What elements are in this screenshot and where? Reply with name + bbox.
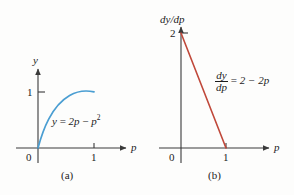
panel-b-eq-fraction: dy dp: [215, 70, 228, 93]
panel-a-equation: y = 2p − p2: [52, 116, 101, 127]
panel-a-y-tick-label-1: 1: [27, 87, 33, 98]
panel-b-y-axis-label: dy/dp: [160, 14, 184, 25]
panel-a-caption: (a): [61, 170, 73, 181]
panel-b-x-axis-label: p: [274, 142, 280, 153]
panel-a: y p 0 1 1 y = 2p − p2 (a): [0, 0, 147, 195]
panel-a-eq-term2-exp: 2: [97, 113, 101, 122]
panel-b: dy/dp p 0 2 1 dy dp = 2 − 2p (b): [147, 0, 294, 195]
panel-b-y-tick-label-2: 2: [170, 28, 176, 39]
panel-b-eq-frac-num: dy: [215, 70, 228, 81]
panel-a-eq-term1: 2p: [69, 115, 80, 127]
figure-root: y p 0 1 1 y = 2p − p2 (a): [0, 0, 294, 195]
panel-a-x-axis-label: p: [131, 142, 137, 153]
panel-b-x-tick-label-1: 1: [223, 152, 229, 163]
panel-a-x-tick-label-1: 1: [91, 152, 97, 163]
panel-b-equation: dy dp = 2 − 2p: [215, 70, 269, 93]
panel-a-plot: [0, 0, 147, 195]
panel-b-eq-frac-den: dp: [215, 81, 228, 93]
panel-b-eq-rhs: 2 − 2p: [240, 74, 269, 86]
panel-b-origin-label: 0: [169, 152, 175, 163]
panel-a-origin-label: 0: [26, 152, 32, 163]
panel-a-y-axis-label: y: [33, 55, 38, 66]
panel-b-caption: (b): [208, 170, 221, 181]
